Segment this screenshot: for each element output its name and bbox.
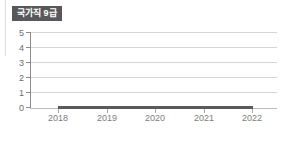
gridline bbox=[30, 47, 277, 48]
x-tick-label: 2020 bbox=[145, 114, 165, 123]
chart-title-badge: 국가직 9급 bbox=[12, 6, 62, 21]
data-series-line bbox=[58, 106, 253, 109]
x-tick-label: 2019 bbox=[97, 114, 117, 123]
plot-area bbox=[30, 32, 277, 108]
y-axis-tick bbox=[26, 32, 30, 33]
y-tick-label: 5 bbox=[8, 29, 24, 38]
y-tick-label: 3 bbox=[8, 59, 24, 68]
y-axis-tick bbox=[26, 92, 30, 93]
line-chart: 0 1 2 3 4 5 2018 2019 bbox=[0, 28, 287, 136]
gridline bbox=[30, 77, 277, 78]
y-axis-tick bbox=[26, 62, 30, 63]
y-axis-line bbox=[30, 32, 31, 108]
y-tick-label: 2 bbox=[8, 74, 24, 83]
y-axis-tick bbox=[26, 47, 30, 48]
y-tick-label: 0 bbox=[8, 104, 24, 113]
chart-title-label: 국가직 9급 bbox=[17, 9, 57, 18]
gridline bbox=[30, 32, 277, 33]
x-tick-label: 2022 bbox=[242, 114, 262, 123]
gridline bbox=[30, 92, 277, 93]
y-tick-label: 4 bbox=[8, 44, 24, 53]
gridline bbox=[30, 62, 277, 63]
y-axis-labels: 0 1 2 3 4 5 bbox=[4, 32, 24, 108]
y-axis-tick bbox=[26, 77, 30, 78]
x-tick-label: 2018 bbox=[48, 114, 68, 123]
y-tick-label: 1 bbox=[8, 89, 24, 98]
chart-panel: 국가직 9급 0 1 2 3 4 5 bbox=[0, 0, 287, 142]
x-tick-label: 2021 bbox=[194, 114, 214, 123]
x-axis-labels: 2018 2019 2020 2021 2022 bbox=[0, 114, 287, 130]
